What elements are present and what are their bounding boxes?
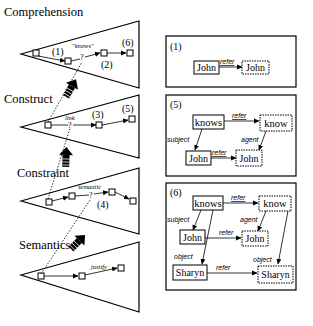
- big-arrows: [59, 76, 90, 254]
- panel-6: (6) knows refer know subject agent John …: [166, 183, 296, 290]
- edge-label: refer: [216, 264, 231, 271]
- node-square: [79, 273, 85, 279]
- annotation-n6: (6): [122, 37, 134, 49]
- node-square: [109, 189, 115, 195]
- node-label: Sharyn: [261, 269, 289, 280]
- node-label: John: [189, 153, 208, 164]
- node-label: John: [246, 62, 265, 73]
- node-label: John: [240, 153, 259, 164]
- node-square: [96, 122, 102, 128]
- edge-label: refer: [219, 229, 234, 236]
- edge-label: subject: [167, 136, 190, 144]
- node-label: knows: [194, 198, 221, 209]
- node-square: [69, 193, 75, 199]
- level-constraint: Constraint ? semantic (4): [17, 166, 139, 234]
- level-label: Constraint: [17, 166, 70, 180]
- panel-id: (1): [170, 41, 182, 53]
- annotation-word: justify: [90, 263, 107, 270]
- edge-label: subject: [167, 216, 190, 224]
- question-mark: ?: [68, 121, 72, 130]
- node-square: [65, 58, 71, 64]
- panel-id: (6): [170, 187, 182, 199]
- annotation-n2: (2): [101, 59, 113, 71]
- question-mark: ?: [80, 53, 84, 62]
- annotation-n5: (5): [122, 103, 134, 115]
- node-square: [129, 116, 135, 122]
- node-square: [33, 50, 39, 56]
- node-label: John: [197, 62, 216, 73]
- edge-label: object: [253, 256, 273, 264]
- node-square: [130, 198, 136, 204]
- big-arrow-icon: [59, 147, 74, 167]
- node-label: knows: [195, 117, 222, 128]
- big-arrow-icon: [60, 76, 82, 100]
- edge-label: refer: [212, 149, 227, 156]
- level-semantics: Semantics justify: [19, 238, 139, 312]
- edge-label: object: [174, 253, 194, 261]
- edge-label: agent: [240, 216, 259, 224]
- edge-label: refer: [231, 194, 246, 201]
- edge-label: refer: [232, 112, 247, 119]
- node-label: John: [183, 232, 202, 243]
- diagram: Comprehension ? (1) "knows" (2) (6) Cons…: [0, 0, 313, 326]
- node-label: John: [246, 233, 265, 244]
- level-label: Construct: [4, 92, 53, 106]
- panel-id: (5): [170, 99, 182, 111]
- level-label: Comprehension: [4, 5, 84, 19]
- panel-5: (5) knows refer know subject agent John …: [166, 95, 296, 176]
- node-square: [45, 122, 51, 128]
- node-square: [101, 50, 107, 56]
- node-label: know: [263, 198, 287, 209]
- edge-label: refer: [220, 58, 235, 65]
- edge-label: agent: [241, 136, 260, 144]
- node-square: [46, 199, 52, 205]
- annotation-n1: (1): [52, 46, 64, 58]
- node-label: Sharyn: [176, 267, 204, 278]
- annotation-word: semantic: [78, 183, 101, 190]
- annotation-n4: (4): [97, 199, 109, 211]
- node-label: know: [264, 118, 288, 129]
- level-construct: Construct ? link (3) (5): [4, 92, 139, 158]
- level-comprehension: Comprehension ? (1) "knows" (2) (6): [4, 5, 139, 88]
- node-square: [118, 265, 124, 271]
- annotation-n3: (3): [92, 109, 104, 121]
- question-mark: ?: [89, 191, 93, 200]
- level-label: Semantics: [19, 238, 71, 252]
- annotation-word: "knows": [72, 42, 94, 49]
- node-square: [127, 50, 133, 56]
- panel-1: (1) John refer John: [166, 36, 296, 87]
- annotation-word: link: [65, 114, 75, 121]
